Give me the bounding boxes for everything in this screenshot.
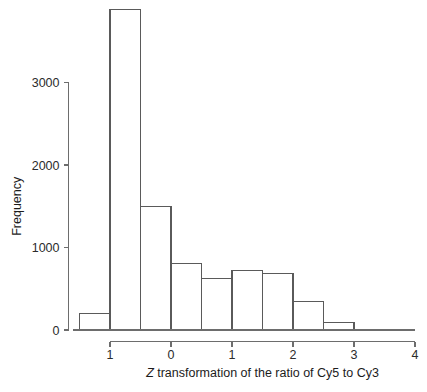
histogram-figure: 0100020003000Frequency101234Z transforma… (0, 0, 427, 392)
histogram-bar (171, 263, 202, 330)
histogram-bar (110, 9, 141, 330)
histogram-bar (141, 206, 172, 330)
bar-rect (263, 273, 294, 330)
x-axis-title-symbol: Z (145, 366, 154, 380)
y-axis-title: Frequency (10, 176, 24, 236)
x-axis-title: Z transformation of the ratio of Cy5 to … (145, 366, 379, 380)
histogram-bar (232, 271, 263, 330)
y-axis-tick-label: 1000 (32, 241, 60, 255)
x-axis-tick-label: 0 (168, 348, 175, 362)
x-axis-tick-label: 2 (290, 348, 297, 362)
histogram-bar (293, 302, 324, 330)
y-axis-tick-label: 0 (53, 324, 60, 338)
bar-rect (110, 9, 141, 330)
histogram-plot: 0100020003000Frequency101234Z transforma… (0, 0, 427, 392)
x-axis-tick-label: 3 (351, 348, 358, 362)
bar-rect (232, 271, 263, 330)
bar-rect (80, 314, 111, 331)
x-axis-title-text: transformation of the ratio of Cy5 to Cy… (154, 366, 379, 380)
histogram-bar (80, 314, 111, 331)
bar-rect (324, 323, 355, 330)
bar-rect (202, 278, 233, 330)
y-axis-tick-label: 2000 (32, 159, 60, 173)
x-axis-tick-label: 4 (412, 348, 419, 362)
bar-rect (171, 263, 202, 330)
x-axis-tick-label: 1 (107, 348, 114, 362)
histogram-bar (324, 323, 355, 330)
y-axis-tick-label: 3000 (32, 76, 60, 90)
x-axis-tick-label: 1 (229, 348, 236, 362)
bar-rect (293, 302, 324, 330)
histogram-bar (202, 278, 233, 330)
bar-rect (141, 206, 172, 330)
histogram-bar (263, 273, 294, 330)
